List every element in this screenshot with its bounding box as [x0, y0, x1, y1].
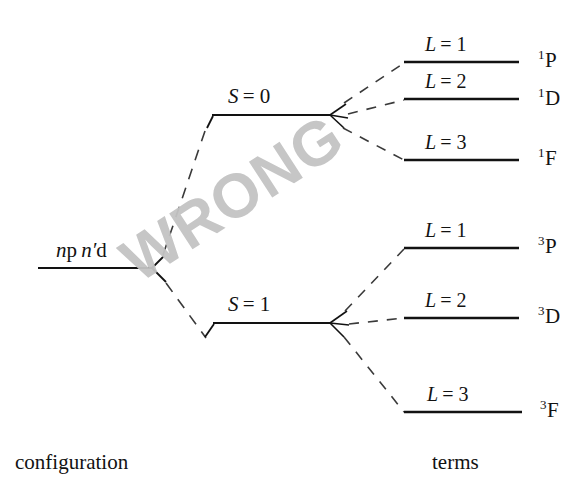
caption-configuration: configuration — [15, 452, 128, 473]
fan-arrow-s0 — [330, 104, 348, 128]
configuration-label: np n′d — [56, 240, 107, 261]
spin-value-s1: = 1 — [243, 292, 271, 316]
configuration-n2: n — [81, 238, 92, 262]
l-label-1D: L = 2 — [425, 71, 466, 91]
term-superscript-3P: 3 — [538, 233, 545, 248]
term-letter-1F: F — [545, 146, 557, 170]
l-label-3P: L = 1 — [425, 220, 466, 240]
term-symbol-3P: 3P — [538, 234, 557, 257]
l-value-1P: = 1 — [440, 33, 466, 55]
spin-symbol-s0: S — [228, 84, 239, 108]
term-letter-3D: D — [545, 304, 560, 328]
spin-label-s0: S = 0 — [228, 86, 270, 107]
l-value-1F: = 3 — [440, 131, 466, 153]
connector-config-to-s0 — [163, 128, 206, 255]
l-label-3D: L = 2 — [425, 290, 466, 310]
l-value-3P: = 1 — [440, 219, 466, 241]
term-letter-1D: D — [545, 86, 560, 110]
configuration-orb2: d — [96, 238, 107, 262]
term-letter-3P: P — [545, 234, 557, 258]
l-symbol-3P: L — [425, 219, 436, 241]
l-symbol-3D: L — [425, 289, 436, 311]
term-letter-1P: P — [545, 48, 557, 72]
l-symbol-1D: L — [425, 70, 436, 92]
term-superscript-1P: 1 — [538, 47, 545, 62]
spin-value-s0: = 0 — [243, 84, 271, 108]
term-splitting-figure: np n′d S = 0 S = 1 L = 1 L = 2 L = 3 L =… — [0, 0, 587, 494]
spin-level-s0 — [207, 115, 330, 128]
l-symbol-1P: L — [425, 33, 436, 55]
l-label-3F: L = 3 — [427, 384, 468, 404]
l-value-1D: = 2 — [440, 70, 466, 92]
caption-terms: terms — [432, 452, 479, 473]
spin-level-s1 — [205, 323, 330, 337]
term-letter-3F: F — [547, 398, 559, 422]
term-symbol-3F: 3F — [540, 398, 559, 421]
l-label-1F: L = 3 — [425, 132, 466, 152]
l-label-1P: L = 1 — [425, 34, 466, 54]
l-value-3D: = 2 — [440, 289, 466, 311]
term-superscript-3D: 3 — [538, 303, 545, 318]
term-superscript-1F: 1 — [538, 145, 545, 160]
l-value-3F: = 3 — [442, 383, 468, 405]
spin-symbol-s1: S — [228, 292, 239, 316]
l-symbol-1F: L — [425, 131, 436, 153]
term-superscript-1D: 1 — [538, 85, 545, 100]
spin-label-s1: S = 1 — [228, 294, 270, 315]
fan-arrow-s1 — [330, 311, 349, 337]
term-superscript-3F: 3 — [540, 397, 547, 412]
configuration-orb1: p — [67, 238, 78, 262]
term-symbol-1F: 1F — [538, 146, 557, 169]
term-symbol-1D: 1D — [538, 86, 560, 109]
l-symbol-3F: L — [427, 383, 438, 405]
term-symbol-1P: 1P — [538, 48, 557, 71]
term-symbol-3D: 3D — [538, 304, 560, 327]
configuration-n1: n — [56, 238, 67, 262]
fan-lines-s1 — [344, 249, 404, 412]
connector-config-to-s1 — [166, 283, 206, 338]
fan-lines-s0 — [343, 63, 404, 160]
